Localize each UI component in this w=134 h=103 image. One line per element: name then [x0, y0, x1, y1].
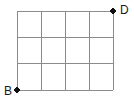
grid-vertical-lines	[17, 11, 113, 90]
point-marker-b	[14, 87, 19, 92]
grid-diagram: B D	[0, 0, 134, 103]
grid-svg	[0, 0, 134, 103]
point-label-d: D	[120, 4, 129, 16]
point-label-b: B	[4, 85, 12, 97]
point-marker-d	[110, 8, 115, 13]
